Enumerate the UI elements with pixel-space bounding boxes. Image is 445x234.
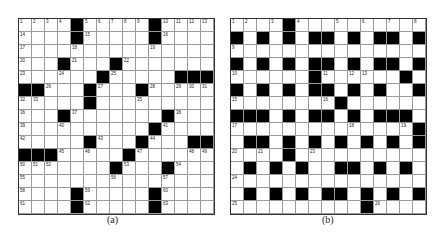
clue-number: 63 xyxy=(163,201,168,206)
clue-number: 24 xyxy=(59,71,64,76)
clue-number: 32 xyxy=(20,97,25,102)
black-square xyxy=(413,136,426,149)
white-square xyxy=(413,97,426,110)
black-square xyxy=(322,188,335,201)
white-square: 17 xyxy=(19,45,32,58)
white-square: 25 xyxy=(231,201,244,214)
black-square xyxy=(348,110,361,123)
black-square xyxy=(110,162,123,175)
white-square: 23 xyxy=(309,149,322,162)
black-square xyxy=(32,84,45,97)
white-square xyxy=(374,149,387,162)
white-square xyxy=(400,19,413,32)
clue-number: 37 xyxy=(72,110,77,115)
black-square xyxy=(71,32,84,45)
white-square xyxy=(71,136,84,149)
white-square xyxy=(296,45,309,58)
black-square xyxy=(283,149,296,162)
clue-number: 2 xyxy=(245,19,248,24)
white-square xyxy=(97,32,110,45)
white-square xyxy=(45,45,58,58)
white-square: 20 xyxy=(231,149,244,162)
white-square: 58 xyxy=(19,188,32,201)
white-square xyxy=(123,45,136,58)
clue-number: 56 xyxy=(111,175,116,180)
white-square xyxy=(400,175,413,188)
black-square xyxy=(188,136,201,149)
clue-number: 49 xyxy=(202,149,207,154)
white-square xyxy=(45,110,58,123)
black-square xyxy=(244,188,257,201)
white-square xyxy=(374,45,387,58)
black-square xyxy=(201,136,214,149)
black-square xyxy=(257,32,270,45)
white-square xyxy=(84,71,97,84)
white-square xyxy=(162,97,175,110)
black-square xyxy=(32,149,45,162)
white-square xyxy=(244,84,257,97)
white-square: 2 xyxy=(32,19,45,32)
white-square xyxy=(201,201,214,214)
white-square xyxy=(309,175,322,188)
white-square xyxy=(188,58,201,71)
clue-number: 51 xyxy=(33,162,38,167)
white-square xyxy=(136,45,149,58)
black-square xyxy=(335,97,348,110)
clue-number: 52 xyxy=(46,162,51,167)
white-square xyxy=(270,136,283,149)
clue-number: 16 xyxy=(163,32,168,37)
white-square: 18 xyxy=(348,123,361,136)
white-square xyxy=(201,32,214,45)
black-square xyxy=(400,71,413,84)
white-square xyxy=(45,71,58,84)
white-square xyxy=(110,84,123,97)
black-square xyxy=(110,58,123,71)
white-square xyxy=(123,175,136,188)
black-square xyxy=(374,110,387,123)
clue-number: 20 xyxy=(20,58,25,63)
black-square xyxy=(244,162,257,175)
clue-number: 10 xyxy=(232,71,237,76)
white-square: 6 xyxy=(97,19,110,32)
white-square xyxy=(335,45,348,58)
white-square xyxy=(309,45,322,58)
white-square xyxy=(58,97,71,110)
black-square xyxy=(231,58,244,71)
clue-number: 60 xyxy=(163,188,168,193)
white-square: 9 xyxy=(231,45,244,58)
white-square xyxy=(201,188,214,201)
black-square xyxy=(19,84,32,97)
black-square xyxy=(136,84,149,97)
clue-number: 15 xyxy=(232,97,237,102)
white-square: 4 xyxy=(296,19,309,32)
clue-number: 20 xyxy=(232,149,237,154)
black-square xyxy=(309,110,322,123)
clue-number: 48 xyxy=(189,149,194,154)
white-square xyxy=(257,45,270,58)
white-square xyxy=(175,136,188,149)
white-square xyxy=(123,110,136,123)
white-square xyxy=(188,110,201,123)
white-square xyxy=(97,110,110,123)
clue-number: 5 xyxy=(85,19,88,24)
white-square: 45 xyxy=(58,149,71,162)
white-square: 8 xyxy=(413,19,426,32)
white-square xyxy=(45,175,58,188)
clue-number: 55 xyxy=(20,175,25,180)
clue-number: 21 xyxy=(258,149,263,154)
white-square: 19 xyxy=(149,45,162,58)
white-square: 51 xyxy=(32,162,45,175)
white-square: 55 xyxy=(19,175,32,188)
clue-number: 2 xyxy=(33,19,36,24)
black-square xyxy=(413,32,426,45)
white-square: 43 xyxy=(97,136,110,149)
white-square: 23 xyxy=(19,71,32,84)
black-square xyxy=(283,84,296,97)
black-square xyxy=(231,84,244,97)
white-square xyxy=(244,175,257,188)
white-square: 61 xyxy=(19,201,32,214)
black-square xyxy=(71,201,84,214)
white-square xyxy=(84,45,97,58)
clue-number: 8 xyxy=(414,19,417,24)
clue-number: 8 xyxy=(124,19,127,24)
